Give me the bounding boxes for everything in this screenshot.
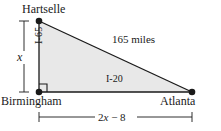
expr-suffix: − 8	[108, 111, 125, 123]
triangle-figure: Hartselle Birmingham Atlanta 165 miles I…	[0, 0, 221, 131]
vertex-label-hartselle: Hartselle	[22, 3, 65, 15]
vertex-dot-hartselle	[36, 18, 43, 25]
hypotenuse-label-165-miles: 165 miles	[112, 34, 155, 45]
i20-leg-label: I-20	[106, 74, 123, 84]
vertical-dimension-label-x: x	[17, 51, 22, 63]
vertex-label-birmingham: Birmingham	[1, 95, 62, 107]
horizontal-dimension-label-expression: 2x − 8	[98, 112, 126, 123]
vertex-label-atlanta: Atlanta	[160, 95, 195, 107]
i65-leg-label: I-65	[34, 27, 44, 44]
